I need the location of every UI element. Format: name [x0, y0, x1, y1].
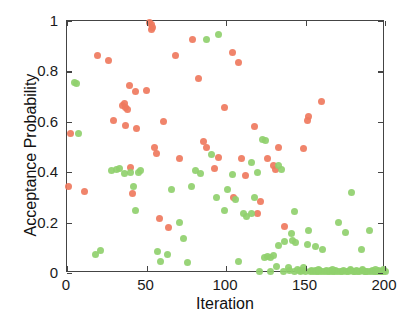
data-point-rejected — [127, 169, 134, 176]
data-point-accepted — [238, 155, 245, 162]
y-tick — [67, 172, 72, 173]
data-point-rejected — [229, 171, 236, 178]
data-point-rejected — [262, 137, 269, 144]
data-point-accepted — [129, 190, 136, 197]
x-tick-label: 200 — [371, 276, 396, 293]
x-tick — [147, 266, 148, 271]
data-point-rejected — [267, 268, 274, 275]
data-point-accepted — [254, 210, 261, 217]
data-point-rejected — [270, 252, 277, 259]
x-tick-label: 150 — [292, 276, 317, 293]
x-tick-label: 50 — [137, 276, 154, 293]
data-point-accepted — [126, 82, 133, 89]
x-tick-label: 0 — [62, 276, 70, 293]
data-point-rejected — [224, 186, 231, 193]
data-point-accepted — [105, 57, 112, 64]
x-tick — [226, 21, 227, 26]
data-point-accepted — [122, 122, 129, 129]
data-point-rejected — [154, 248, 161, 255]
y-axis-title: Acceptance Probability — [22, 30, 40, 280]
x-tick — [385, 266, 386, 271]
data-point-rejected — [319, 246, 326, 253]
data-point-rejected — [315, 266, 322, 273]
data-point-rejected — [197, 170, 204, 177]
data-point-rejected — [75, 130, 82, 137]
data-point-rejected — [248, 210, 255, 217]
y-tick — [378, 122, 383, 123]
data-point-rejected — [335, 219, 342, 226]
data-point-accepted — [195, 75, 202, 82]
data-point-accepted — [281, 223, 288, 230]
data-point-rejected — [97, 247, 104, 254]
data-point-rejected — [254, 169, 261, 176]
data-point-accepted — [160, 118, 167, 125]
data-point-accepted — [133, 125, 140, 132]
data-point-rejected — [221, 207, 228, 214]
data-point-rejected — [213, 194, 220, 201]
y-tick — [378, 273, 383, 274]
data-point-accepted — [235, 59, 242, 66]
y-tick — [378, 172, 383, 173]
y-tick — [67, 223, 72, 224]
data-point-rejected — [304, 241, 311, 248]
y-tick — [67, 21, 72, 22]
data-point-rejected — [73, 80, 80, 87]
data-point-accepted — [275, 144, 282, 151]
data-point-rejected — [348, 189, 355, 196]
data-point-rejected — [275, 242, 282, 249]
data-point-accepted — [300, 145, 307, 152]
data-point-rejected — [312, 243, 319, 250]
data-point-accepted — [156, 215, 163, 222]
data-point-rejected — [176, 219, 183, 226]
data-point-accepted — [172, 52, 179, 59]
data-point-rejected — [372, 266, 379, 273]
data-point-rejected — [342, 229, 349, 236]
plot-area — [66, 20, 384, 272]
data-point-rejected — [137, 167, 144, 174]
data-point-rejected — [248, 159, 255, 166]
data-point-rejected — [215, 31, 222, 38]
data-point-rejected — [305, 227, 312, 234]
data-point-rejected — [292, 239, 299, 246]
data-point-rejected — [132, 207, 139, 214]
y-tick-label: 1 — [0, 12, 58, 29]
data-point-accepted — [229, 49, 236, 56]
x-tick — [67, 266, 68, 271]
data-point-accepted — [148, 26, 155, 33]
data-point-accepted — [65, 183, 72, 190]
x-tick — [306, 21, 307, 26]
data-point-rejected — [281, 238, 288, 245]
data-point-rejected — [280, 268, 287, 275]
data-point-rejected — [359, 266, 366, 273]
data-point-rejected — [232, 196, 239, 203]
x-axis-title: Iteration — [66, 295, 384, 313]
data-point-accepted — [257, 198, 264, 205]
data-point-rejected — [256, 268, 263, 275]
data-point-rejected — [358, 246, 365, 253]
data-point-accepted — [221, 104, 228, 111]
y-tick — [378, 223, 383, 224]
y-tick — [378, 21, 383, 22]
x-tick — [306, 266, 307, 271]
data-point-rejected — [184, 259, 191, 266]
x-tick — [147, 21, 148, 26]
x-tick — [385, 21, 386, 26]
data-point-rejected — [164, 251, 171, 258]
data-point-accepted — [318, 98, 325, 105]
data-point-rejected — [168, 186, 175, 193]
data-point-accepted — [242, 172, 249, 179]
data-point-rejected — [329, 266, 336, 273]
data-point-accepted — [189, 36, 196, 43]
y-tick — [378, 71, 383, 72]
y-tick — [67, 273, 72, 274]
data-point-accepted — [132, 88, 139, 95]
data-point-accepted — [81, 188, 88, 195]
data-point-accepted — [153, 150, 160, 157]
data-point-accepted — [176, 155, 183, 162]
x-tick-label: 100 — [212, 276, 237, 293]
data-point-accepted — [304, 117, 311, 124]
data-point-accepted — [67, 130, 74, 137]
y-tick — [67, 122, 72, 123]
data-point-rejected — [291, 208, 298, 215]
data-point-rejected — [235, 258, 242, 265]
